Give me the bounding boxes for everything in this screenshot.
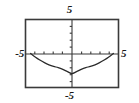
graph-figure: 5 -5 5 -5 — [0, 0, 139, 103]
plot-area — [0, 0, 139, 103]
